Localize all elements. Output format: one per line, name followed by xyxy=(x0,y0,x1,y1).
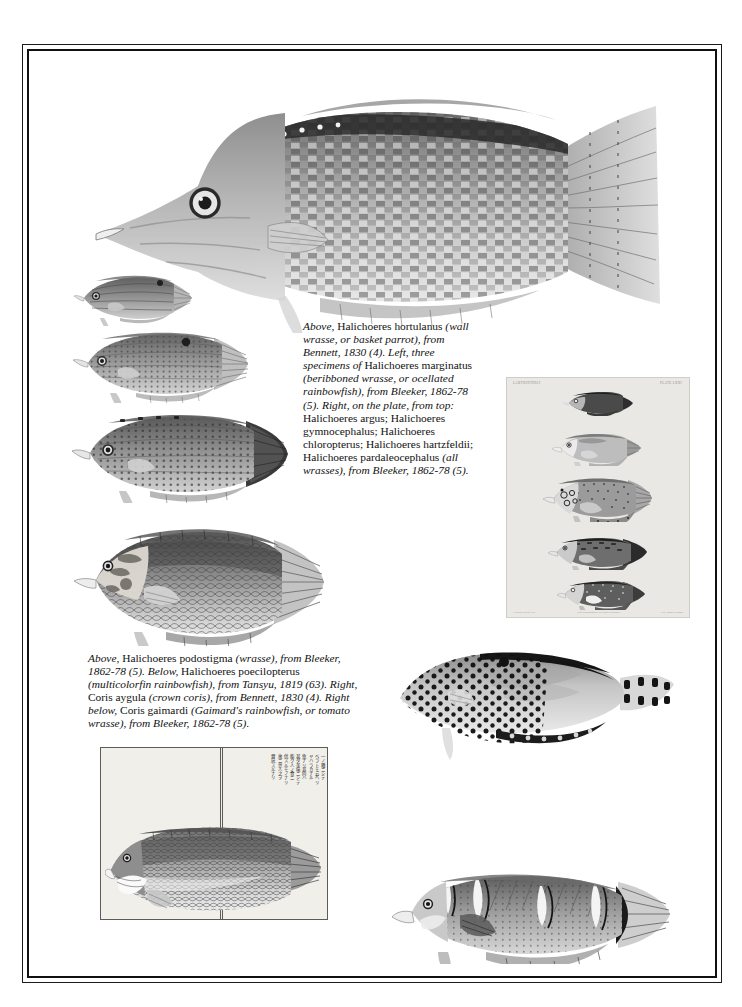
plate-footer-center: Atlas Ichthyologique des Indes Orientale… xyxy=(576,611,620,614)
plate-fish-halichoeres-chloropterus xyxy=(540,474,652,522)
caudal-fin xyxy=(562,106,660,304)
figure-halichoeres-marginatus-1 xyxy=(68,270,208,326)
caption-upper-plate: Above, Halichoeres hortulanus (wall wras… xyxy=(303,320,481,477)
caption-lower-plate: Above, Halichoeres podostigma (wrasse), … xyxy=(88,652,364,731)
woodblock-fish-poecilopterus xyxy=(105,818,323,918)
figure-halichoeres-podostigma xyxy=(62,518,330,646)
plate-fish-halichoeres-pardaleocephalus xyxy=(555,578,645,610)
figure-halichoeres-marginatus-3 xyxy=(64,405,302,503)
fish-eye xyxy=(191,189,219,217)
plate-header-right: PLATE LXXI xyxy=(660,381,682,385)
woodblock-text-column: 能ク人ノ食ニ xyxy=(289,754,294,828)
plate-footer-right: Lith. Emrik & Binger xyxy=(661,611,683,614)
woodblock-text-column: ベラトモ云ヘリ xyxy=(314,754,319,828)
japanese-woodblock-print: 一ノ種ニシテベラトモ云ヘリヤハラカナル魚ナリ其肉ハ甚ダ美味ニシテ能ク人ノ食ニ供ス… xyxy=(100,747,328,920)
woodblock-text-column: 賞玩スルナリ xyxy=(270,754,275,828)
woodblock-vertical-text: 一ノ種ニシテベラトモ云ヘリヤハラカナル魚ナリ其肉ハ甚ダ美味ニシテ能ク人ノ食ニ供ス… xyxy=(227,754,325,828)
woodblock-text-column: 供スルモノナリ xyxy=(283,754,288,828)
figure-coris-gaimardi xyxy=(382,860,680,964)
woodblock-text-column: 魚ナリ其肉ハ xyxy=(301,754,306,828)
woodblock-text-column: 故ニ世人之ヲ xyxy=(276,754,281,828)
plate-fish-halichoeres-hartzfeldii xyxy=(545,534,647,570)
figure-coris-aygula xyxy=(392,640,680,762)
plate-fish-halichoeres-argus xyxy=(559,390,634,416)
woodblock-text-column: 甚ダ美味ニシテ xyxy=(295,754,300,828)
bleeker-plate: LABYRINTHICI PLATE LXXI xyxy=(506,377,690,618)
plate-footer-left: P. Bleeker ad nat. del. xyxy=(513,611,536,614)
figure-halichoeres-marginatus-2 xyxy=(66,325,260,403)
plate-fish-halichoeres-gymnocephalus xyxy=(549,430,641,466)
plate-header-left: LABYRINTHICI xyxy=(513,381,540,385)
woodblock-text-column: ヤハラカナル xyxy=(307,754,312,828)
woodblock-text-column: 一ノ種ニシテ xyxy=(320,754,325,828)
